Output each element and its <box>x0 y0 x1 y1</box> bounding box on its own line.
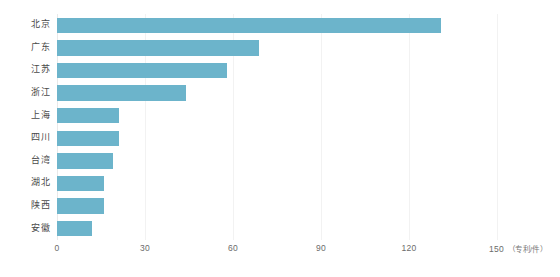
category-label: 台湾 <box>31 153 50 168</box>
category-label: 北京 <box>31 17 50 32</box>
category-label: 广东 <box>31 40 50 55</box>
bar[interactable] <box>57 131 119 146</box>
bar-row: 江苏 <box>57 59 497 82</box>
bars-layer: 北京广东江苏浙江上海四川台湾湖北陕西安徽 <box>57 14 497 240</box>
category-label: 四川 <box>31 130 50 145</box>
x-tick-label: 30 <box>140 243 150 253</box>
x-tick-label: 60 <box>228 243 238 253</box>
x-tick-label: 0 <box>54 243 59 253</box>
bar[interactable] <box>57 176 104 191</box>
bar-row: 北京 <box>57 14 497 37</box>
bar[interactable] <box>57 221 92 236</box>
category-label: 浙江 <box>31 85 50 100</box>
bar[interactable] <box>57 108 119 123</box>
bar-row: 广东 <box>57 37 497 60</box>
bar-row: 陕西 <box>57 195 497 218</box>
category-label: 陕西 <box>31 198 50 213</box>
bar-row: 台湾 <box>57 150 497 173</box>
x-axis: 0306090120150（专利/件） <box>57 243 497 263</box>
bar-row: 四川 <box>57 127 497 150</box>
axis-unit-label: （专利/件） <box>508 245 547 254</box>
x-tick-label: 90 <box>316 243 326 253</box>
x-tick-value: 90 <box>316 243 326 253</box>
bar[interactable] <box>57 153 113 168</box>
category-label: 安徽 <box>31 221 50 236</box>
bar[interactable] <box>57 40 259 55</box>
x-tick-value: 120 <box>401 243 416 253</box>
gridline-150 <box>497 14 498 240</box>
category-label: 江苏 <box>31 62 50 77</box>
plot-area: 北京广东江苏浙江上海四川台湾湖北陕西安徽 <box>57 14 497 240</box>
category-label: 湖北 <box>31 175 50 190</box>
x-tick-label: 150（专利/件） <box>489 243 547 254</box>
category-label: 上海 <box>31 108 50 123</box>
bar[interactable] <box>57 63 227 78</box>
bar-row: 上海 <box>57 104 497 127</box>
bar-row: 安徽 <box>57 217 497 240</box>
x-tick-value: 60 <box>228 243 238 253</box>
bar[interactable] <box>57 198 104 213</box>
bar-chart: 北京广东江苏浙江上海四川台湾湖北陕西安徽 0306090120150（专利/件） <box>0 0 560 277</box>
bar-row: 湖北 <box>57 172 497 195</box>
x-tick-label: 120 <box>401 243 416 253</box>
x-tick-value: 30 <box>140 243 150 253</box>
bar[interactable] <box>57 18 441 33</box>
bar[interactable] <box>57 85 186 100</box>
x-tick-value: 0 <box>54 243 59 253</box>
bar-row: 浙江 <box>57 82 497 105</box>
x-tick-value: 150 <box>489 244 504 254</box>
